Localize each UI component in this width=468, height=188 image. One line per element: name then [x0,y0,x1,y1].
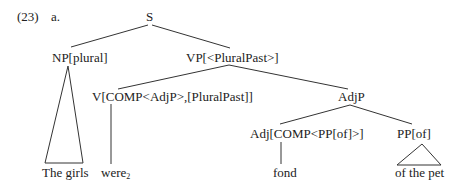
leaf-were-subscript: 2 [126,172,130,181]
leaf-fond: fond [273,166,297,180]
node-s: S [146,10,153,24]
leaf-were-text: were [101,165,126,180]
leaf-were: were2 [101,166,130,184]
leaf-the-girls: The girls [42,166,89,180]
node-v: V[COMP<AdjP>,[PluralPast]] [92,90,253,104]
branch-s-vp [152,25,230,48]
np-triangle [45,66,83,163]
branch-adjp-adj [280,105,350,124]
branch-adjp-pp [350,105,412,124]
pp-triangle [397,144,441,165]
node-pp: PP[of] [397,127,431,141]
node-vp: VP[<PluralPast>] [186,51,279,65]
branch-vp-adjp [229,65,348,89]
branch-s-np [71,25,148,47]
example-sublabel: a. [51,10,60,24]
node-adjp: AdjP [338,90,365,104]
branch-vp-v [118,65,229,89]
node-adj: Adj[COMP<PP[of]>] [250,127,364,141]
example-number: (23) [17,10,39,24]
node-np: NP[plural] [52,51,108,65]
leaf-of-the-pet: of the pet [395,166,444,180]
